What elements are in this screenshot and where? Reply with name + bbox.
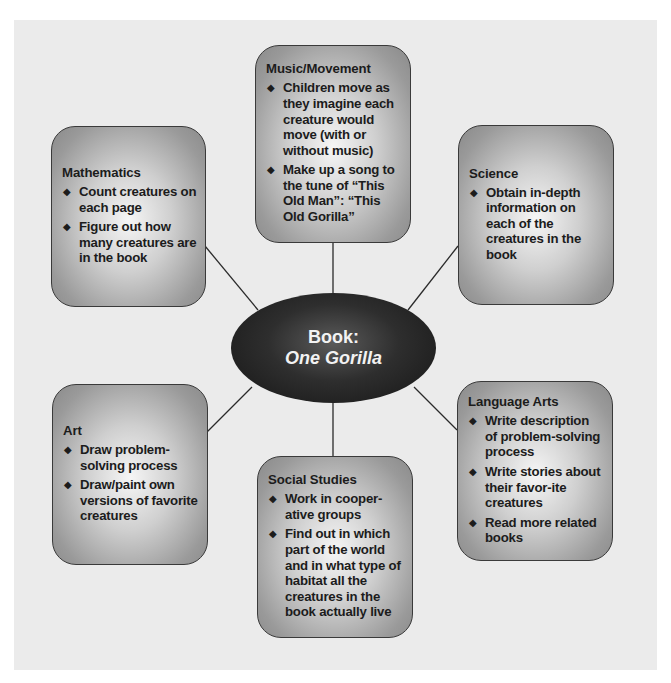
science-box: Science ◆Obtain in-depth information on …: [458, 125, 614, 305]
mathematics-box: Mathematics ◆Count creatures on each pag…: [51, 126, 206, 307]
box-title: Art: [63, 423, 199, 439]
activity-list: ◆Children move as they imagine each crea…: [266, 80, 402, 228]
connector-art: [207, 387, 252, 432]
list-item: ◆Make up a song to the tune of “This Old…: [266, 162, 402, 224]
list-item: ◆Obtain in-depth information on each of …: [469, 185, 605, 263]
activity-list: ◆Count creatures on each page ◆Figure ou…: [62, 184, 197, 270]
diamond-bullet-icon: ◆: [267, 80, 275, 96]
list-item: ◆Count creatures on each page: [62, 184, 197, 215]
book-title: One Gorilla: [285, 348, 382, 369]
diamond-bullet-icon: ◆: [470, 185, 478, 201]
list-item: ◆Read more related books: [468, 515, 604, 546]
list-item: ◆Figure out how many creatures are in th…: [62, 219, 197, 266]
central-book-node: Book: One Gorilla: [231, 293, 436, 403]
list-item: ◆Work in cooper-ative groups: [268, 491, 404, 522]
social-studies-box: Social Studies ◆Work in cooper-ative gro…: [257, 456, 413, 638]
music-movement-box: Music/Movement ◆Children move as they im…: [255, 45, 411, 243]
diamond-bullet-icon: ◆: [269, 491, 277, 507]
list-item: ◆Draw/paint own versions of favorite cre…: [63, 477, 199, 524]
diamond-bullet-icon: ◆: [269, 526, 277, 542]
diamond-bullet-icon: ◆: [469, 464, 477, 480]
list-item: ◆Find out in which part of the world and…: [268, 526, 404, 620]
box-title: Language Arts: [468, 394, 604, 410]
diamond-bullet-icon: ◆: [63, 219, 71, 235]
box-title: Mathematics: [62, 165, 197, 181]
diamond-bullet-icon: ◆: [469, 515, 477, 531]
diamond-bullet-icon: ◆: [64, 477, 72, 493]
list-item: ◆Draw problem-solving process: [63, 442, 199, 473]
box-title: Science: [469, 166, 605, 182]
diamond-bullet-icon: ◆: [267, 162, 275, 178]
diamond-bullet-icon: ◆: [469, 413, 477, 429]
activity-list: ◆Draw problem-solving process ◆Draw/pain…: [63, 442, 199, 528]
activity-list: ◆Write description of problem-solving pr…: [468, 413, 604, 550]
activity-list: ◆Obtain in-depth information on each of …: [469, 185, 605, 267]
box-title: Music/Movement: [266, 61, 402, 77]
list-item: ◆Children move as they imagine each crea…: [266, 80, 402, 158]
art-box: Art ◆Draw problem-solving process ◆Draw/…: [52, 384, 208, 565]
connector-math: [205, 246, 258, 310]
activity-list: ◆Work in cooper-ative groups ◆Find out i…: [268, 491, 404, 624]
diamond-bullet-icon: ◆: [63, 184, 71, 200]
language-arts-box: Language Arts ◆Write description of prob…: [457, 381, 613, 561]
connector-science: [408, 246, 458, 310]
connector-language: [414, 387, 457, 430]
list-item: ◆Write description of problem-solving pr…: [468, 413, 604, 460]
center-label: Book:: [308, 327, 359, 348]
diamond-bullet-icon: ◆: [64, 442, 72, 458]
box-title: Social Studies: [268, 472, 404, 488]
list-item: ◆Write stories about their favor-ite cre…: [468, 464, 604, 511]
